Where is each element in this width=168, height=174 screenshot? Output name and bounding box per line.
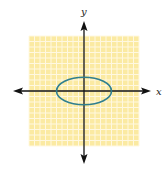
y-axis-label: y <box>80 6 87 17</box>
coordinate-plane: x y <box>0 0 168 174</box>
x-axis-label: x <box>156 86 162 97</box>
